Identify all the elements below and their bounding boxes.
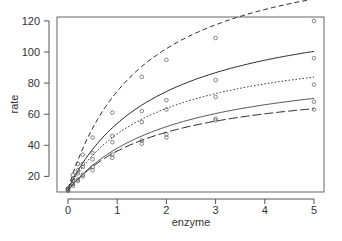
data-point [91,157,95,161]
data-point [312,19,316,23]
data-point [110,134,114,138]
data-points [66,19,316,192]
y-axis-label: rate [8,95,20,114]
x-tick-label: 1 [114,204,120,216]
y-tick-label: 120 [22,15,40,27]
y-tick-label: 40 [28,139,40,151]
data-point [71,173,75,177]
data-point [140,120,144,124]
data-point [312,108,316,112]
data-point [140,109,144,113]
x-axis: 012345 [65,199,317,216]
y-tick-label: 20 [28,170,40,182]
x-tick-label: 4 [262,204,268,216]
data-point [91,136,95,140]
data-point [81,153,85,157]
y-tick-label: 60 [28,108,40,120]
fitted-curves [68,0,314,190]
data-point [110,140,114,144]
curve-longdash [68,109,314,191]
plot-box [57,17,324,192]
data-point [214,78,218,82]
data-point [140,75,144,79]
x-axis-label: enzyme [172,216,211,228]
data-point [91,151,95,155]
data-point [312,83,316,87]
rate-vs-enzyme-chart: 20406080100120 012345 enzyme rate [0,0,342,241]
curve-dotted [68,77,314,189]
data-point [110,111,114,115]
data-point [312,100,316,104]
data-point [165,58,169,62]
x-tick-label: 3 [213,204,219,216]
data-point [214,95,218,99]
curve-solid [68,51,314,188]
y-axis: 20406080100120 [22,15,49,183]
y-tick-label: 100 [22,46,40,58]
x-tick-label: 2 [163,204,169,216]
data-point [312,56,316,60]
x-tick-label: 0 [65,204,71,216]
curve-dashed [68,0,314,189]
x-tick-label: 5 [311,204,317,216]
y-tick-label: 80 [28,77,40,89]
data-point [165,98,169,102]
data-point [214,36,218,40]
